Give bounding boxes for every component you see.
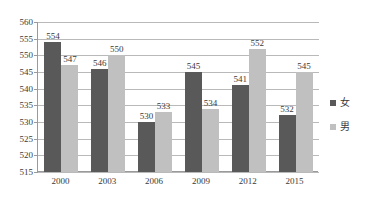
- bar-group: 546550: [85, 22, 132, 172]
- bar-value-label: 541: [233, 75, 247, 84]
- bar-group: 530533: [132, 22, 179, 172]
- x-axis-tick-label: 2009: [177, 176, 224, 186]
- bar-chart: 560555550545540535530525520515 554547546…: [0, 0, 370, 213]
- gridline: [38, 172, 319, 173]
- bar-male[interactable]: 547: [61, 65, 78, 172]
- y-axis-tick-label: 540: [20, 84, 34, 93]
- bar-value-label: 546: [93, 59, 107, 68]
- legend-label: 男: [340, 122, 350, 132]
- y-axis-tick-label: 555: [20, 34, 34, 43]
- legend-label: 女: [340, 98, 350, 108]
- bar-group-container: 554547546550530533545534541552532545: [38, 22, 319, 172]
- y-axis-tick-label: 560: [20, 18, 34, 27]
- bar-group: 545534: [178, 22, 225, 172]
- bar-female[interactable]: 532: [279, 115, 296, 172]
- bar-male[interactable]: 552: [249, 49, 266, 172]
- legend-item[interactable]: 男: [330, 122, 350, 132]
- y-axis-tick-label: 550: [20, 51, 34, 60]
- bar-group: 541552: [225, 22, 272, 172]
- y-axis-tick-label: 530: [20, 118, 34, 127]
- x-axis-tick-label: 2000: [37, 176, 84, 186]
- bar-male[interactable]: 550: [108, 55, 125, 172]
- bar-value-label: 550: [110, 45, 124, 54]
- bar-value-label: 554: [46, 32, 60, 41]
- legend-swatch-female-icon: [330, 100, 336, 106]
- y-axis-tick-label: 525: [20, 134, 34, 143]
- x-axis-tick-label: 2015: [271, 176, 318, 186]
- bar-value-label: 552: [250, 39, 264, 48]
- bar-male[interactable]: 534: [202, 109, 219, 172]
- bar-value-label: 545: [297, 62, 311, 71]
- x-axis-labels: 200020032006200920122015: [37, 176, 318, 186]
- y-axis-tick-label: 545: [20, 68, 34, 77]
- bar-group: 554547: [38, 22, 85, 172]
- bar-value-label: 532: [280, 105, 294, 114]
- chart-legend: 女男: [330, 98, 350, 132]
- bar-female[interactable]: 554: [44, 42, 61, 172]
- bar-pair: 541552: [232, 22, 266, 172]
- bar-value-label: 530: [140, 112, 154, 121]
- bar-value-label: 533: [157, 102, 171, 111]
- bar-female[interactable]: 541: [232, 85, 249, 172]
- y-axis-tick-label: 515: [20, 168, 34, 177]
- bar-value-label: 534: [204, 99, 218, 108]
- bar-male[interactable]: 533: [155, 112, 172, 172]
- y-axis-tick: [34, 172, 38, 173]
- bar-pair: 546550: [91, 22, 125, 172]
- bar-pair: 545534: [185, 22, 219, 172]
- y-axis-tick-label: 520: [20, 151, 34, 160]
- y-axis-tick-label: 535: [20, 101, 34, 110]
- plot-area: 560555550545540535530525520515 554547546…: [37, 22, 318, 172]
- bar-group: 532545: [272, 22, 319, 172]
- x-axis-tick-label: 2006: [131, 176, 178, 186]
- bar-pair: 532545: [279, 22, 313, 172]
- bar-female[interactable]: 545: [185, 72, 202, 172]
- bar-value-label: 547: [63, 55, 77, 64]
- legend-item[interactable]: 女: [330, 98, 350, 108]
- legend-swatch-male-icon: [330, 124, 336, 130]
- bar-male[interactable]: 545: [296, 72, 313, 172]
- bar-female[interactable]: 530: [138, 122, 155, 172]
- bar-pair: 530533: [138, 22, 172, 172]
- bar-value-label: 545: [187, 62, 201, 71]
- x-axis-tick-label: 2012: [224, 176, 271, 186]
- bar-pair: 554547: [44, 22, 78, 172]
- bar-female[interactable]: 546: [91, 69, 108, 172]
- x-axis-tick-label: 2003: [84, 176, 131, 186]
